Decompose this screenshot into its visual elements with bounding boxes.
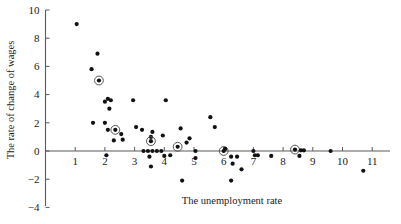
data-point [161,133,165,137]
data-point [168,153,172,157]
data-point [95,52,99,56]
x-axis-title: The unemployment rate [182,195,283,206]
x-tick-label: 8 [280,155,286,167]
data-point [159,149,163,153]
data-point [269,154,273,158]
y-tick-label: 6 [34,60,40,72]
data-point [75,22,79,26]
data-point-highlighted [176,145,180,149]
data-point [235,155,239,159]
data-point [131,98,135,102]
phillips-curve-scatter-chart: −4−20246810 1234567891011 The unemployme… [0,0,401,224]
scatter-plot-figure: −4−20246810 1234567891011 The unemployme… [0,0,401,224]
data-point [140,128,144,132]
x-tick-label: 10 [337,155,349,167]
data-point [361,169,365,173]
data-point [164,98,168,102]
data-point [251,149,255,153]
data-point [149,164,153,168]
data-point [134,125,138,129]
data-point [162,154,166,158]
data-point [229,179,233,183]
y-axis-title: The rate of change of wages [5,41,16,160]
data-point [213,125,217,129]
data-point [119,132,123,136]
x-tick-label: 11 [367,155,378,167]
data-point [91,121,95,125]
data-point [107,107,111,111]
data-point-highlighted [97,78,101,82]
data-point [109,98,113,102]
data-point [193,156,197,160]
data-point [150,130,154,134]
data-point [208,115,212,119]
x-tick-label: 3 [132,155,138,167]
data-point [329,149,333,153]
y-tick-label: 4 [34,88,40,100]
data-point [229,155,233,159]
data-point [297,154,301,158]
y-tick-label: 0 [34,145,40,157]
data-point-highlighted [113,128,117,132]
data-point-highlighted [149,139,153,143]
y-tick-label: 10 [29,4,41,16]
data-point [147,155,151,159]
data-point [231,162,235,166]
data-point [193,149,197,153]
data-point [179,126,183,130]
y-tick-label: 2 [34,117,40,129]
x-tick-label: 1 [72,155,78,167]
data-point [150,149,154,153]
data-point [256,153,260,157]
y-tick-label: −4 [28,201,40,213]
data-point [104,153,108,157]
data-point [112,138,116,142]
x-tick-label: 9 [310,155,316,167]
data-point [180,179,184,183]
data-point [106,128,110,132]
x-tick-label: 6 [221,155,227,167]
data-point [121,138,125,142]
data-point [155,149,159,153]
data-point [223,147,227,151]
y-tick-label: 8 [34,32,40,44]
axes [46,10,391,206]
data-point [89,67,93,71]
data-point [146,149,150,153]
data-point-highlighted [293,147,297,151]
y-axis-ticks: −4−20246810 [28,4,50,213]
data-point [103,121,107,125]
data-point [184,140,188,144]
data-point [187,136,191,140]
data-point [141,149,145,153]
data-point [302,148,306,152]
data-point [239,167,243,171]
y-tick-label: −2 [28,173,40,185]
